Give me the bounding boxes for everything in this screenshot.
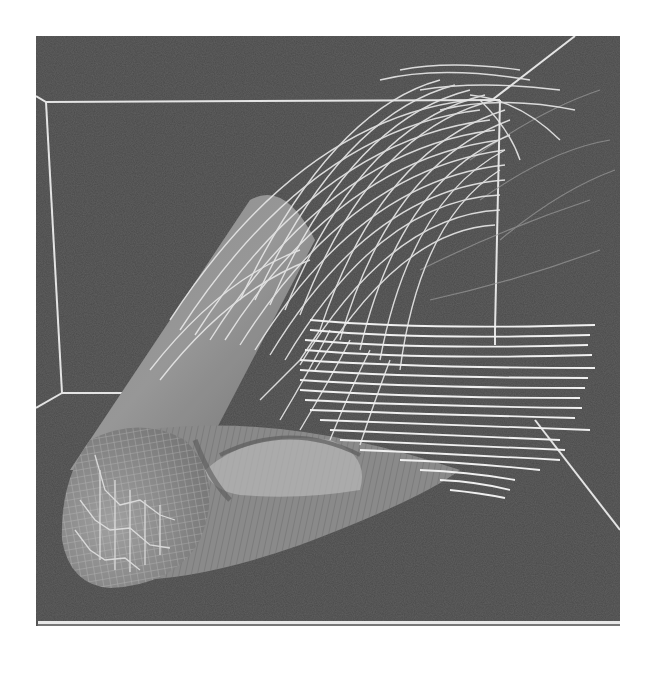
panel-bottom-border [38,621,620,624]
flow-visualization-canvas [0,0,653,682]
flow-visualization-figure [0,0,653,682]
